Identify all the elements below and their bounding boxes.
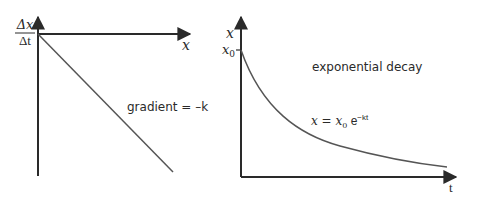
x0-label: x0 — [222, 42, 235, 59]
right-x-label: t — [449, 180, 453, 195]
x0-sub: 0 — [229, 49, 235, 59]
left-graph: Δx Δt x gradient = –k — [15, 17, 208, 176]
decay-formula: x = x0 e−kt — [311, 113, 369, 130]
left-x-label: x — [182, 37, 190, 53]
gradient-annotation: gradient = –k — [127, 100, 208, 114]
right-graph: x x0 exponential decay x = x0 e−kt t — [222, 17, 456, 195]
left-y-label-denominator: Δt — [19, 33, 31, 48]
formula-exp: −kt — [357, 113, 369, 122]
exponential-decay-title: exponential decay — [312, 60, 422, 74]
formula-lhs: x = — [311, 114, 335, 128]
formula-e: e — [347, 114, 357, 128]
left-y-label-numerator: Δx — [16, 17, 34, 32]
right-y-label: x — [226, 25, 234, 41]
decay-diagram: Δx Δt x gradient = –k x x0 exponential d… — [0, 0, 477, 197]
